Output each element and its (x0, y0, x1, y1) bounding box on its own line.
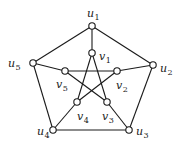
vertex-label-u4: u4 (37, 125, 50, 140)
vertex-label-u2: u2 (160, 62, 173, 77)
vertex-u5 (30, 60, 36, 66)
edge-v3-v5 (65, 71, 107, 102)
graph-canvas: u1u2u3u4u5v1v2v3v4v5 (0, 0, 183, 145)
vertex-label-v5: v5 (56, 78, 68, 93)
vertex-v2 (114, 68, 120, 74)
vertex-label-u1: u1 (87, 7, 100, 22)
vertex-v1 (89, 50, 95, 56)
vertex-v3 (104, 99, 110, 105)
vertex-label-v2: v2 (116, 79, 128, 94)
vertex-label-v4: v4 (77, 110, 89, 125)
vertex-u3 (126, 127, 132, 133)
vertex-label-u3: u3 (136, 125, 149, 140)
vertex-u4 (50, 127, 56, 133)
petersen-graph-diagram: u1u2u3u4u5v1v2v3v4v5 (0, 0, 183, 145)
vertex-label-u5: u5 (8, 57, 21, 72)
edge-u5-v5 (33, 63, 65, 71)
edge-group (33, 26, 153, 130)
vertex-label-v1: v1 (99, 50, 111, 65)
edge-u4-u5 (33, 63, 53, 130)
vertex-v5 (62, 68, 68, 74)
edge-v4-v1 (77, 53, 92, 102)
vertex-u1 (89, 23, 95, 29)
edge-u2-v2 (117, 65, 153, 71)
edge-v2-v4 (77, 71, 117, 102)
edge-u2-u3 (129, 65, 153, 130)
edge-u5-u1 (33, 26, 92, 63)
edge-u4-v4 (53, 102, 77, 130)
vertex-v4 (74, 99, 80, 105)
vertex-u2 (150, 62, 156, 68)
vertex-label-v3: v3 (102, 110, 114, 125)
